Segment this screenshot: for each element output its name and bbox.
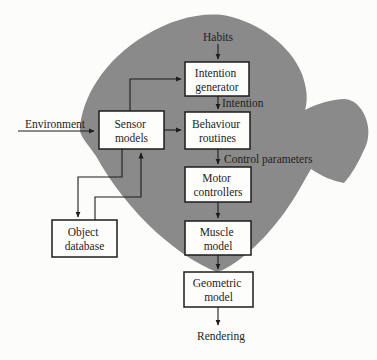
label-rendering: Rendering — [197, 330, 245, 343]
fish-architecture-diagram: Intention generator Behaviour routines S… — [0, 0, 377, 360]
label-intention: Intention — [222, 97, 264, 109]
box-motor-controllers: Motor controllers — [185, 167, 251, 202]
box-object-database: Object database — [52, 220, 117, 257]
box-muscle-model: Muscle model — [185, 221, 251, 255]
box-intention-generator: Intention generator — [185, 62, 249, 96]
box-geometric-model: Geometric model — [184, 272, 253, 307]
diagram-canvas: Intention generator Behaviour routines S… — [0, 0, 377, 360]
box-intention-generator-label: Intention generator — [195, 67, 239, 94]
label-control-parameters: Control parameters — [224, 153, 313, 166]
label-habits: Habits — [203, 31, 234, 43]
box-sensor-models: Sensor models — [99, 111, 164, 149]
label-environment: Environment — [25, 118, 86, 130]
box-behaviour-routines: Behaviour routines — [185, 112, 250, 149]
